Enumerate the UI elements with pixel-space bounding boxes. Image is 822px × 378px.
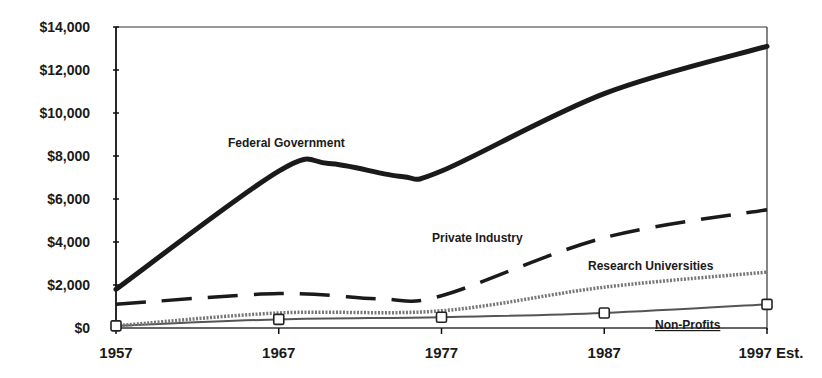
label-private-industry: Private Industry xyxy=(432,231,523,245)
x-tick-label: 1987 xyxy=(588,344,621,361)
y-tick-label: $2,000 xyxy=(47,277,90,293)
square-marker xyxy=(437,312,447,322)
square-marker xyxy=(599,308,609,318)
x-axis: 19571967197719871997 Est. xyxy=(99,328,803,361)
y-tick-label: $8,000 xyxy=(47,148,90,164)
label-research-universities: Research Universities xyxy=(588,259,714,273)
series-federal-government-line xyxy=(116,46,767,289)
x-tick-label: 1977 xyxy=(425,344,458,361)
x-tick-label: 1957 xyxy=(99,344,132,361)
y-tick-label: $14,000 xyxy=(39,19,90,35)
square-marker xyxy=(762,299,772,309)
square-marker xyxy=(274,314,284,324)
x-tick-label: 1967 xyxy=(262,344,295,361)
label-non-profits: Non-Profits xyxy=(655,318,721,332)
label-federal-government: Federal Government xyxy=(228,136,345,150)
series-private-industry-line xyxy=(116,210,767,305)
y-tick-label: $0 xyxy=(74,320,90,336)
y-tick-label: $4,000 xyxy=(47,234,90,250)
y-tick-label: $12,000 xyxy=(39,62,90,78)
rd-funding-line-chart: $0$2,000$4,000$6,000$8,000$10,000$12,000… xyxy=(0,0,822,378)
y-axis: $0$2,000$4,000$6,000$8,000$10,000$12,000… xyxy=(39,19,119,336)
y-tick-label: $10,000 xyxy=(39,105,90,121)
y-tick-label: $6,000 xyxy=(47,191,90,207)
x-tick-label: 1997 Est. xyxy=(738,344,803,361)
square-marker xyxy=(111,321,121,331)
